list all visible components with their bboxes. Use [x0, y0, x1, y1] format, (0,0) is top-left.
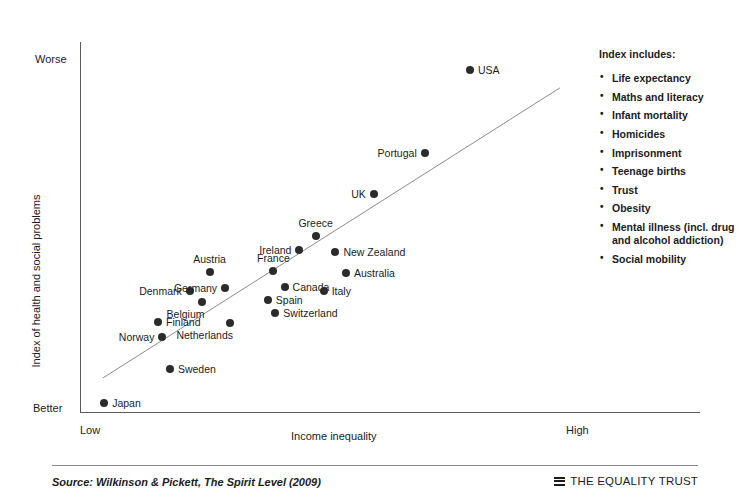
data-point-label: Netherlands: [176, 330, 233, 341]
data-point-label: Spain: [276, 294, 303, 305]
index-item: Obesity: [599, 202, 745, 215]
index-item: Homicides: [599, 128, 745, 141]
data-point-label: Australia: [354, 268, 395, 279]
data-point: [295, 246, 303, 254]
data-point-label: Portugal: [378, 148, 417, 159]
brand-lockup: THE EQUALITY TRUST: [554, 475, 698, 487]
data-point-label: Sweden: [178, 364, 216, 375]
index-item: Imprisonment: [599, 147, 745, 160]
index-panel-heading: Index includes:: [599, 48, 745, 60]
index-item: Teenage births: [599, 165, 745, 178]
data-point-label: Switzerland: [283, 308, 337, 319]
source-note: Source: Wilkinson & Pickett, The Spirit …: [52, 476, 321, 488]
y-axis-title: Index of health and social problems: [30, 181, 42, 381]
data-point-label: USA: [478, 65, 500, 76]
index-item: Trust: [599, 184, 745, 197]
data-point: [206, 268, 214, 276]
data-point-label: Germany: [174, 283, 217, 294]
data-point: [100, 399, 108, 407]
data-point: [342, 269, 350, 277]
data-point-label: Norway: [119, 332, 155, 343]
data-point-label: New Zealand: [343, 247, 405, 258]
data-point-label: Austria: [193, 254, 226, 265]
data-point: [198, 298, 206, 306]
data-point: [312, 232, 320, 240]
data-point: [269, 267, 277, 275]
data-point: [154, 318, 162, 326]
data-point: [466, 66, 474, 74]
data-point-label: Japan: [112, 398, 141, 409]
data-point: [331, 248, 339, 256]
data-point: [281, 283, 289, 291]
data-point: [421, 149, 429, 157]
index-item: Mental illness (incl. drug and alcohol a…: [599, 221, 745, 247]
data-point: [370, 190, 378, 198]
index-item: Infant mortality: [599, 109, 745, 122]
data-point-label: Italy: [332, 286, 351, 297]
data-point: [264, 296, 272, 304]
x-axis-title: Income inequality: [291, 430, 377, 442]
x-axis-tick-high: High: [566, 424, 589, 436]
data-point: [166, 365, 174, 373]
y-axis-line: [80, 42, 81, 412]
data-point: [271, 309, 279, 317]
index-item-list: Life expectancyMaths and literacyInfant …: [599, 72, 745, 266]
data-point-label: Ireland: [259, 245, 291, 256]
data-point: [221, 284, 229, 292]
data-point-label: UK: [351, 189, 366, 200]
y-axis-tick-worse: Worse: [35, 53, 67, 65]
data-point-label: Greece: [298, 218, 332, 229]
index-item: Maths and literacy: [599, 91, 745, 104]
three-bars-logo-icon: [554, 477, 565, 486]
data-point-label: Belgium: [167, 309, 205, 320]
data-point: [320, 287, 328, 295]
index-panel: Index includes: Life expectancyMaths and…: [599, 48, 745, 271]
scatter-chart: Worse Better Low High Income inequality …: [0, 0, 749, 503]
footer-divider: [52, 465, 698, 466]
data-point: [158, 333, 166, 341]
index-item: Social mobility: [599, 253, 745, 266]
index-item: Life expectancy: [599, 72, 745, 85]
data-point: [226, 319, 234, 327]
brand-name: THE EQUALITY TRUST: [570, 475, 698, 487]
x-axis-line: [80, 412, 700, 413]
x-axis-tick-low: Low: [80, 424, 100, 436]
y-axis-tick-better: Better: [33, 402, 62, 414]
